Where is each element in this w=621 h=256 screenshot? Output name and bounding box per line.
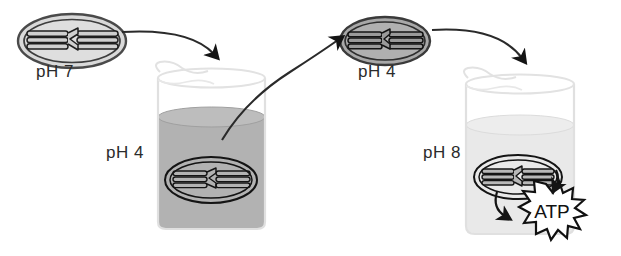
liquid-surface-ph8 [466,115,574,135]
beaker-liquid-ph8 [466,125,574,233]
atp-burst-shape [519,181,586,240]
ph8-inner-membrane [479,160,557,194]
beaker-ph4 [156,62,265,229]
beaker-glass-wall-2 [466,84,574,234]
chloroplast-in-ph8-beaker [474,155,562,199]
chloroplast-ph4 [340,17,430,65]
submerged-stroma-lamella [207,168,216,188]
label-ph7: pH 7 [36,62,74,82]
chloroplast-ph4-grana-right [389,32,423,49]
submerged-grana-right [216,171,250,188]
beaker-spout-2 [464,68,516,79]
arrow-1 [122,31,214,54]
submerged-grana-left [173,171,207,188]
beaker-rim-2 [466,75,574,94]
chloroplast-ph4-inner-membrane [345,22,425,60]
chloroplast-ph7 [18,14,126,68]
stroma-lamella [68,28,78,50]
grana-stack-left [27,31,68,49]
label-ph8-beaker: pH 8 [423,143,461,163]
grana-stack-right [77,31,118,49]
chloroplast-experiment-diagram: ATP pH 7 pH 4 pH 4 pH 8 [0,0,621,256]
chloroplast-ph4-outer-membrane [340,17,430,65]
atp-label: ATP [534,201,570,222]
label-ph4-chloroplast: pH 4 [358,62,396,82]
submerged-inner-membrane [170,162,252,198]
liquid-surface-ph4 [158,107,265,127]
beaker-glass-wall-1 [158,78,265,229]
beaker-ph8: ATP [464,68,586,240]
ph8-stroma-lamella [514,166,522,186]
arrow-atp-right [556,170,558,186]
beaker-rim-inner-1 [158,80,214,84]
chloroplast-in-ph4-beaker [165,157,257,203]
beaker-rim-inner-2 [466,86,522,90]
ph8-grana-right [522,169,554,185]
beaker-rim-1 [158,69,265,88]
chloroplast-inner-membrane [24,20,120,63]
label-ph4-beaker: pH 4 [106,143,144,163]
arrow-2 [222,40,338,140]
submerged-outer-membrane [165,157,257,203]
ph8-outer-membrane [474,155,562,199]
atp-burst: ATP [519,181,586,240]
diagram-artwork: ATP [0,0,621,256]
chloroplast-ph4-stroma-lamella [382,29,390,49]
arrow-3 [432,30,522,58]
ph8-grana-left [482,169,514,185]
chloroplast-ph4-grana-left [348,32,382,49]
arrow-atp-left [496,192,505,216]
chloroplast-outer-membrane [18,14,126,68]
beaker-liquid-ph4 [158,117,265,228]
beaker-spout-1 [156,62,208,73]
